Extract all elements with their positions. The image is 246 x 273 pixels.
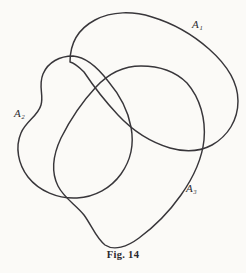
curve-label-a2: A₂ [14, 107, 25, 119]
curve-label-a3: A₃ [186, 182, 197, 194]
figure-page: A₁ A₂ A₃ Fig. 14 [0, 0, 246, 273]
figure-caption: Fig. 14 [0, 249, 246, 260]
jordan-curves-figure [0, 0, 246, 273]
curve-label-a1: A₁ [192, 18, 203, 30]
curve-a1 [70, 13, 238, 151]
curve-a2 [18, 56, 132, 198]
